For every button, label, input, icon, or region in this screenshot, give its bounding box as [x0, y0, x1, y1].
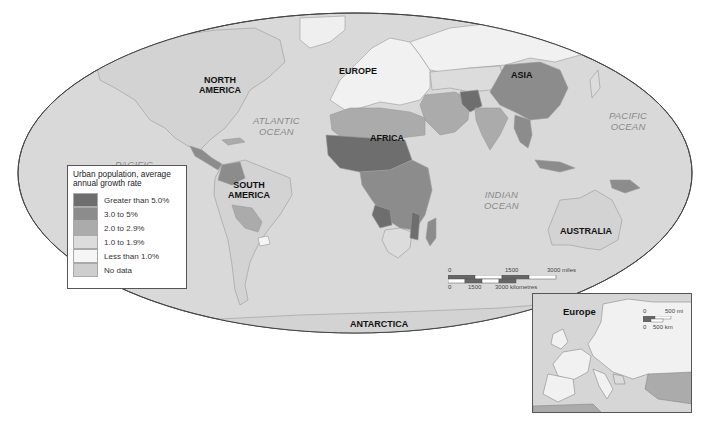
- legend-swatch: [73, 235, 98, 249]
- map-legend: Urban population, average annual growth …: [67, 165, 187, 289]
- scale-miles-start: 0: [448, 267, 451, 273]
- legend-swatch: [73, 249, 98, 263]
- scale-km-start: 0: [448, 284, 451, 290]
- label-asia: ASIA: [511, 70, 533, 80]
- legend-item: 3.0 to 5%: [73, 207, 181, 221]
- legend-item: Greater than 5.0%: [73, 193, 181, 207]
- legend-label: 1.0 to 1.9%: [104, 238, 144, 247]
- legend-item: No data: [73, 263, 181, 277]
- label-indian-ocean: INDIAN OCEAN: [484, 189, 519, 211]
- label-europe: EUROPE: [339, 66, 377, 76]
- legend-item: 1.0 to 1.9%: [73, 235, 181, 249]
- legend-item: Less than 1.0%: [73, 249, 181, 263]
- legend-swatch: [73, 221, 98, 235]
- label-atlantic-ocean: ATLANTIC OCEAN: [253, 115, 300, 137]
- legend-item: 2.0 to 2.9%: [73, 221, 181, 235]
- south-america-uruguay: [258, 236, 270, 246]
- scale-miles-mid: 1500: [505, 267, 518, 273]
- legend-swatch: [73, 207, 98, 221]
- legend-label: 3.0 to 5%: [104, 210, 138, 219]
- scale-miles-end: 3000 miles: [547, 267, 576, 273]
- scale-km-mid: 1500: [468, 284, 481, 290]
- inset-title: Europe: [563, 306, 596, 317]
- legend-label: Greater than 5.0%: [104, 196, 169, 205]
- inset-scale-km-start: 0: [643, 324, 646, 330]
- scale-bar: 0 1500 3000 miles 0 1500 3000 kilometres: [443, 264, 563, 294]
- label-africa: AFRICA: [370, 133, 404, 143]
- inset-scale-graphic: [643, 316, 673, 324]
- scale-bar-graphic: [448, 275, 558, 284]
- legend-title: Urban population, average annual growth …: [73, 170, 181, 187]
- legend-label: Less than 1.0%: [104, 252, 159, 261]
- legend-label: No data: [104, 266, 132, 275]
- scale-km-end: 3000 kilometres: [495, 284, 537, 290]
- legend-swatch: [73, 193, 98, 207]
- inset-scale-mi-end: 500 mi: [665, 308, 683, 314]
- africa-mozambique: [410, 212, 420, 240]
- label-australia: AUSTRALIA: [560, 226, 612, 236]
- label-south-america: SOUTH AMERICA: [228, 180, 270, 200]
- label-pacific-ocean: PACIFIC OCEAN: [609, 110, 647, 132]
- inset-scale-km-end: 500 km: [653, 324, 673, 330]
- legend-label: 2.0 to 2.9%: [104, 224, 144, 233]
- legend-swatch: [73, 263, 98, 277]
- inset-scale-mi-start: 0: [643, 308, 646, 314]
- europe-inset: Europe 0 500 mi 0 500 km: [532, 293, 692, 413]
- label-north-america: NORTH AMERICA: [199, 75, 241, 95]
- label-antarctica: ANTARCTICA: [350, 319, 408, 329]
